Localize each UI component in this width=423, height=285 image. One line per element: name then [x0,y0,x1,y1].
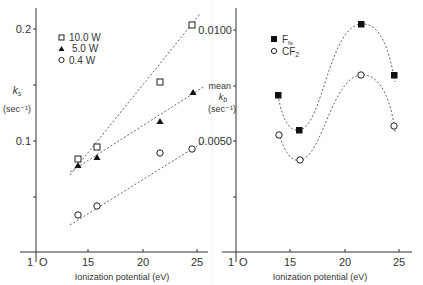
legend-label-0.4W: 0.4 W [69,55,96,66]
right-ylabel: kb [219,92,228,103]
series-5W [75,89,197,168]
legend-label-Ffs: Ffs [282,34,293,46]
right-ylabel-mean: mean [208,81,231,91]
left-xtick-20: 20 [137,256,149,268]
left-ylabel-unit: (sec⁻¹) [3,104,31,114]
legend-triangle-icon [59,46,65,51]
chart-canvas: 0.2 0.1 ks (sec⁻¹) 1 O 15 20 25 Ionizati… [0,0,423,285]
right-xtick-10b: O [239,256,248,268]
right-ytick-0.0100: 0.0100 [198,24,232,36]
left-panel: 0.2 0.1 ks (sec⁻¹) 1 O 15 20 25 Ionizati… [3,8,208,282]
right-panel: 0.0100 0.0050 mean kb (sec⁻¹) 1 O 15 20 … [198,8,412,282]
right-legend: Ffs CF2 [271,34,299,58]
left-xtick-25: 25 [191,256,203,268]
left-ytick-0.1: 0.1 [16,135,31,147]
left-legend: 10.0 W 5.0 W 0.4 W [59,32,102,66]
left-xtick-10a: 1 [27,256,33,268]
legend-label-10W: 10.0 W [69,32,101,43]
right-ylabel-unit: (sec⁻¹) [208,104,236,114]
series-Ffs [275,21,398,134]
right-xtick-25: 25 [393,256,405,268]
legend-label-CF2: CF2 [282,46,299,58]
right-xtick-15: 15 [284,256,296,268]
left-xtick-10b: O [39,256,48,268]
left-ytick-0.2: 0.2 [16,23,31,35]
figure: 0.2 0.1 ks (sec⁻¹) 1 O 15 20 25 Ionizati… [0,0,423,285]
right-xtick-20: 20 [339,256,351,268]
legend-square-icon [59,35,64,40]
series-CF2 [276,72,397,163]
legend-label-5W: 5.0 W [72,43,99,54]
legend-circle-icon [59,57,64,62]
legend-open-circle-icon [271,48,276,53]
left-ylabel: ks [13,85,22,97]
right-xtick-10a: 1 [228,256,234,268]
legend-filled-square-icon [271,36,277,42]
left-xtick-15: 15 [82,256,94,268]
right-fit-curves [278,24,395,160]
series-0.4W [75,146,195,218]
left-xlabel: Ionization potential (eV) [75,272,170,282]
right-ytick-0.0050: 0.0050 [198,135,232,147]
right-xlabel: Ionization potential (eV) [273,272,368,282]
